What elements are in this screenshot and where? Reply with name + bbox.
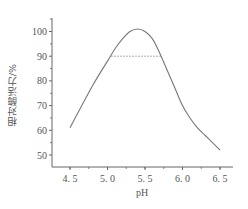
y-tick-label: 70 (37, 100, 47, 111)
x-tick-label: 5. 5 (138, 173, 153, 184)
ticks: 50607080901004. 55. 05. 56. 06. 5 (32, 19, 228, 184)
x-axis-title: pH (136, 187, 148, 198)
axes (52, 18, 233, 167)
x-tick-label: 6. 0 (175, 173, 190, 184)
y-tick-label: 90 (37, 51, 47, 62)
chart-container: 50607080901004. 55. 05. 56. 06. 5 pH 相对酶… (0, 0, 248, 209)
x-tick-label: 4. 5 (63, 173, 78, 184)
ph-activity-chart: 50607080901004. 55. 05. 56. 06. 5 pH (0, 0, 248, 209)
y-tick-label: 80 (37, 75, 47, 86)
series (70, 29, 220, 150)
y-axis-title: 相对酶活力/% (6, 64, 20, 126)
y-tick-label: 50 (37, 150, 47, 161)
x-tick-label: 5. 0 (100, 173, 115, 184)
x-tick-label: 6. 5 (213, 173, 228, 184)
activity-curve (70, 29, 220, 150)
y-tick-label: 100 (32, 26, 47, 37)
y-tick-label: 60 (37, 125, 47, 136)
